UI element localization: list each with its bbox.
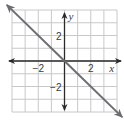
x-tick-label: 2 xyxy=(88,63,94,74)
y-axis-label: y xyxy=(68,10,74,22)
y-tick-label: 2 xyxy=(56,31,62,42)
x-tick-label: −2 xyxy=(33,63,45,74)
x-axis-label: x xyxy=(108,62,114,74)
y-tick-label: −2 xyxy=(50,82,62,93)
coordinate-plane: −222−2 x y xyxy=(0,0,124,120)
